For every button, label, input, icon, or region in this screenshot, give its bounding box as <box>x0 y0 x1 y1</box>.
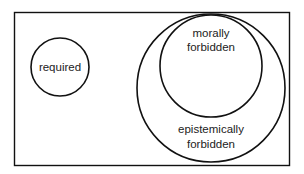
morally-forbidden-label-line2: forbidden <box>187 41 235 53</box>
set-morally-forbidden: morally forbidden <box>160 15 262 117</box>
epistemically-forbidden-label-line2: forbidden <box>187 138 235 150</box>
set-required: required <box>31 38 89 96</box>
morally-forbidden-label-line1: morally <box>192 27 229 39</box>
required-label: required <box>39 61 81 73</box>
venn-diagram: required epistemically forbidden morally… <box>0 0 304 174</box>
universe-rectangle <box>15 13 290 166</box>
epistemically-forbidden-label-line1: epistemically <box>178 123 244 135</box>
